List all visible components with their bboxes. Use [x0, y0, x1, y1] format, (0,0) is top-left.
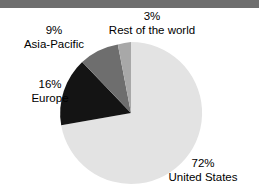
label-asia-pacific-name: Asia-Pacific [2, 38, 106, 52]
label-united-states-percent: 72% [150, 157, 256, 171]
label-rest-of-the-world: 3% Rest of the world [92, 10, 212, 37]
label-europe-percent: 16% [2, 78, 98, 92]
label-rest-of-the-world-name: Rest of the world [92, 24, 212, 38]
label-europe: 16% Europe [2, 78, 98, 105]
label-europe-name: Europe [2, 92, 98, 106]
label-united-states: 72% United States [150, 157, 256, 184]
label-united-states-name: United States [150, 171, 256, 185]
pie-chart: 3% Rest of the world 9% Asia-Pacific 16%… [0, 0, 259, 196]
label-asia-pacific: 9% Asia-Pacific [2, 24, 106, 51]
label-rest-of-the-world-percent: 3% [92, 10, 212, 24]
label-asia-pacific-percent: 9% [2, 24, 106, 38]
